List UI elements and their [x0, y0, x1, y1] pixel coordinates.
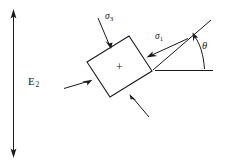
- label-E2: E2: [28, 76, 39, 87]
- sigma3-opposite-arrow: [130, 94, 150, 117]
- sigma1-arrow: [147, 39, 189, 58]
- label-E2-base: E: [28, 75, 35, 87]
- label-sigma3: σ3: [105, 12, 113, 22]
- label-E2-subscript: 2: [35, 80, 39, 89]
- sigma3-opposite-arrowhead: [130, 94, 137, 101]
- label-sigma3-base: σ: [105, 11, 110, 21]
- stress-element-figure: E2 σ3 σ1 θ +: [0, 0, 225, 167]
- label-sigma3-subscript: 3: [110, 15, 114, 23]
- sigma1-opposite-arrow: [64, 80, 93, 89]
- label-sigma1-subscript: 1: [160, 35, 164, 43]
- label-sigma1: σ1: [155, 32, 163, 42]
- sigma1-arrowhead: [147, 51, 158, 57]
- center-marker: +: [116, 61, 123, 73]
- label-theta: θ: [202, 41, 207, 52]
- vertical-double-arrow: [11, 9, 17, 158]
- label-sigma1-base: σ: [155, 31, 160, 41]
